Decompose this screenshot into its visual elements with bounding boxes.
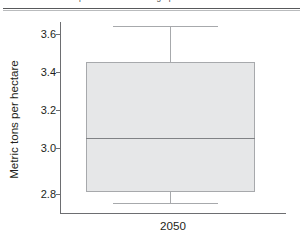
y-axis-tick-label-3-0: 3.0 xyxy=(16,143,56,154)
y-axis-tick-label-3-4: 3.4 xyxy=(16,67,56,78)
lower-whisker-line xyxy=(170,192,171,203)
x-axis-line xyxy=(60,213,286,214)
y-axis-line xyxy=(60,22,61,213)
median-line xyxy=(86,138,255,139)
y-axis-tick-label-2-8: 2.8 xyxy=(16,189,56,200)
upper-whisker-line xyxy=(170,26,171,62)
y-axis-tick-label-3-6: 3.6 xyxy=(16,29,56,40)
x-axis-category-label: 2050 xyxy=(60,219,286,232)
lower-whisker-cap xyxy=(113,203,218,204)
box-iqr xyxy=(86,62,255,192)
box-whisker-chart: Metric tons per hectare 3.6 3.4 3.2 3.0 … xyxy=(0,0,303,239)
y-axis-title: Metric tons per hectare xyxy=(7,30,20,210)
y-axis-tick-label-3-2: 3.2 xyxy=(16,105,56,116)
upper-whisker-cap xyxy=(113,26,218,27)
